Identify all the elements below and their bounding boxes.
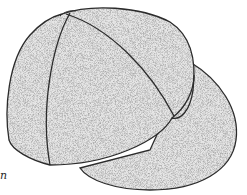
panel-label: n [0, 170, 7, 181]
stippled-solid-illustration [0, 0, 247, 195]
